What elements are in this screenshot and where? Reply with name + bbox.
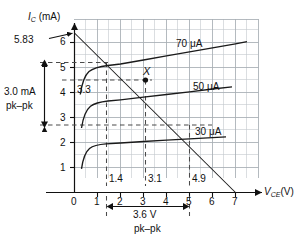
ytick-label-1: 1 [60, 162, 66, 173]
ic-q-label: 3.3 [77, 84, 91, 95]
x-axis-title: VCE(V) [264, 186, 294, 200]
vce-max-label: 4.9 [192, 173, 206, 184]
curve-70ua [80, 42, 247, 95]
xtick-label-7: 7 [232, 196, 238, 207]
intercept-label: 5.83 [14, 34, 33, 45]
ytick-label-4: 4 [60, 87, 66, 98]
y-tick-marks [70, 43, 75, 168]
xtick-label-4: 4 [163, 196, 169, 207]
vce-swing-pkpk: pk–pk [134, 223, 161, 234]
curve-label-50ua: 50 μA [193, 81, 219, 92]
transistor-load-line-chart: IC (mA) VCE(V) 1 2 3 4 5 6 0 1 2 3 4 5 6… [0, 0, 306, 246]
ytick-label-3: 3 [60, 112, 66, 123]
vce-swing-value: 3.6 V [133, 209, 156, 220]
xtick-label-3: 3 [140, 196, 146, 207]
xtick-label-5: 5 [186, 196, 192, 207]
ic-swing-value: 3.0 mA [4, 86, 36, 97]
x-axis-unit: (V) [280, 186, 293, 197]
y-axis-title: IC (mA) [28, 11, 60, 25]
y-axis-subscript: C [31, 16, 36, 23]
vce-min-label: 1.4 [109, 173, 123, 184]
y-axis-unit: (mA) [39, 11, 61, 22]
grid-major [74, 19, 259, 178]
xtick-label-2: 2 [117, 196, 123, 207]
curve-label-30ua: 30 μA [195, 126, 221, 137]
x-axis-subscript: CE [271, 191, 281, 198]
xtick-label-6: 6 [209, 196, 215, 207]
ytick-label-2: 2 [60, 137, 66, 148]
curve-50ua [82, 87, 233, 128]
x-axis-symbol: V [264, 186, 271, 197]
q-point-dot [143, 77, 148, 82]
q-point-label: X [143, 66, 150, 77]
curve-label-70ua: 70 μA [176, 38, 202, 49]
dc-load-line [75, 33, 236, 193]
xtick-label-0: 0 [71, 196, 77, 207]
vce-q-label: 3.1 [148, 173, 162, 184]
ic-swing-pkpk: pk–pk [6, 100, 33, 111]
curve-30ua [82, 137, 227, 169]
xtick-label-1: 1 [94, 196, 100, 207]
ytick-label-6: 6 [60, 36, 66, 47]
ytick-label-5: 5 [60, 62, 66, 73]
